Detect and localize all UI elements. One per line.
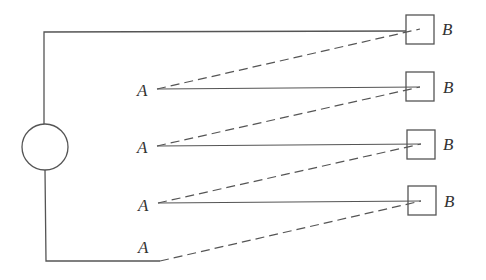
solid-line-a2-b3	[157, 144, 421, 146]
label-b1: B	[442, 20, 453, 39]
emitter-labels: A A A A	[136, 81, 149, 257]
solid-line-a3-b4	[158, 201, 421, 203]
label-a2: A	[136, 138, 148, 157]
dashed-line-a1-b1	[157, 29, 420, 89]
label-b4: B	[444, 192, 455, 211]
solid-line-a1-b1	[157, 87, 420, 89]
circuit-diagram: A A A A B B B B	[0, 0, 486, 280]
dashed-line-a2-b2	[157, 87, 420, 146]
receiver-boxes	[406, 15, 436, 215]
source-circle	[22, 124, 68, 170]
label-a3: A	[137, 196, 149, 215]
dashed-line-a3-b3	[158, 144, 421, 203]
label-b3: B	[443, 135, 454, 154]
label-a1: A	[136, 81, 148, 100]
receiver-labels: B B B B	[442, 20, 455, 211]
label-a4: A	[137, 238, 149, 257]
solid-connections	[157, 87, 421, 203]
dashed-line-a4-b4	[160, 201, 421, 261]
label-b2: B	[443, 78, 454, 97]
